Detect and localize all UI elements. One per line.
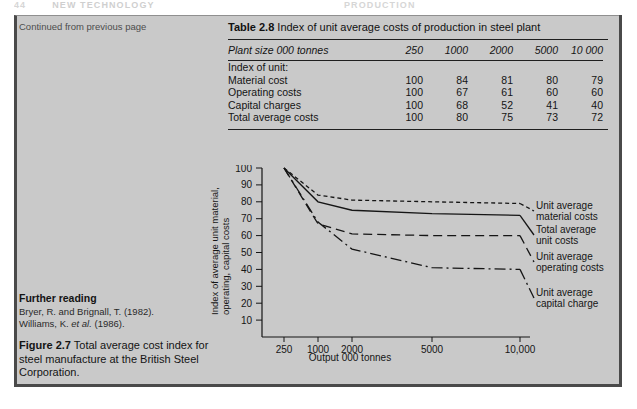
panel-bottom-rule: [14, 384, 622, 387]
table-cell-0-4: 79: [558, 74, 603, 87]
table-col-header-0: 250: [378, 40, 423, 60]
running-head-right-title: PRODUCTION: [344, 0, 416, 10]
y-tick-label: 100: [235, 165, 252, 174]
table-row: Material cost 100 84 81 80 79: [228, 74, 603, 87]
y-tick-label: 70: [241, 213, 253, 224]
legend-leader-line: [520, 236, 534, 262]
running-head: 44 NEW TECHNOLOGY PRODUCTION: [14, 0, 614, 11]
table-title: Table 2.8 Index of unit average costs of…: [228, 21, 608, 33]
legend-leader-line: [520, 269, 534, 298]
table-section-label-row: Index of unit:: [228, 61, 603, 74]
legend-leader-line: [520, 203, 534, 211]
x-tick-label: 5000: [421, 344, 444, 355]
table-cell-0-0: 100: [378, 74, 423, 87]
table-header-row: Plant size 000 tonnes 250 1000 2000 5000…: [228, 40, 603, 60]
reference-item: Williams, K. et al. (1986).: [19, 318, 199, 330]
table-col-header-2: 2000: [468, 40, 513, 60]
y-axis-label-line-1: Index of average unit material,: [209, 187, 220, 315]
table-rule-bottom: [228, 129, 608, 130]
panel-right-edge: [619, 15, 622, 387]
figure-number-label: Figure 2.7: [19, 339, 71, 351]
further-reading-heading: Further reading: [19, 292, 199, 304]
table-col-header-3: 5000: [513, 40, 558, 60]
figure-2-7-chart: 102030405060708090100 25010002000500010,…: [200, 165, 610, 365]
running-head-left-title: NEW TECHNOLOGY: [52, 0, 154, 11]
table-row: Operating costs 100 67 61 60 60: [228, 86, 603, 99]
chart-legend: Unit averagematerial costsTotal averageu…: [520, 200, 604, 309]
table-cell-1-1: 67: [423, 86, 468, 99]
legend-label-line-1: Unit average: [536, 251, 593, 262]
legend-label-line-2: material costs: [536, 211, 598, 222]
y-tick-label: 60: [241, 230, 253, 241]
table-cell-2-1: 68: [423, 99, 468, 112]
table-number-label: Table 2.8: [228, 21, 274, 33]
figure-caption: Figure 2.7 Total average cost index for …: [19, 339, 209, 380]
costs-table: Plant size 000 tonnes 250 1000 2000 5000…: [228, 40, 603, 124]
reference-1-post: (1986).: [92, 318, 125, 329]
legend-label-line-2: unit costs: [536, 235, 578, 246]
table-row-label-2: Capital charges: [228, 99, 378, 112]
series-line: [284, 168, 520, 215]
y-tick-label: 50: [241, 247, 253, 258]
y-tick-label: 20: [241, 298, 253, 309]
y-tick-label: 10: [241, 315, 253, 326]
table-cell-0-3: 80: [513, 74, 558, 87]
reference-0-pre: Bryer, R. and Brignall, T. (1982).: [19, 306, 154, 317]
table-cell-3-4: 72: [558, 111, 603, 124]
table-title-text: Index of unit average costs of productio…: [277, 21, 540, 33]
table-cell-3-2: 75: [468, 111, 513, 124]
y-tick-label: 80: [241, 196, 253, 207]
y-tick-group: 102030405060708090100: [235, 165, 262, 326]
page-folio: 44: [14, 0, 26, 11]
further-reading-block: Further reading Bryer, R. and Brignall, …: [19, 292, 199, 330]
table-col-header-1: 1000: [423, 40, 468, 60]
legend-leader-line: [520, 215, 534, 235]
table-col-header-4: 10 000: [558, 40, 603, 60]
table-cell-3-3: 73: [513, 111, 558, 124]
chart-svg: 102030405060708090100 25010002000500010,…: [200, 165, 610, 365]
legend-label-line-2: capital charge: [536, 298, 599, 309]
table-cell-1-0: 100: [378, 86, 423, 99]
legend-label-line-2: operating costs: [536, 262, 604, 273]
table-cell-1-4: 60: [558, 86, 603, 99]
table-cell-0-1: 84: [423, 74, 468, 87]
table-row-label-3: Total average costs: [228, 111, 378, 124]
table-cell-1-3: 60: [513, 86, 558, 99]
y-tick-label: 40: [241, 264, 253, 275]
reference-1-italic: et al.: [71, 318, 92, 329]
table-cell-0-2: 81: [468, 74, 513, 87]
series-line: [284, 168, 520, 203]
table-cell-2-2: 52: [468, 99, 513, 112]
table-header-stub: Plant size 000 tonnes: [228, 40, 378, 60]
legend-label-line-1: Total average: [536, 224, 596, 235]
table-row: Capital charges 100 68 52 41 40: [228, 99, 603, 112]
x-tick-label: 10,000: [505, 344, 536, 355]
x-axis-label: Output 000 tonnes: [309, 352, 391, 363]
table-cell-3-0: 100: [378, 111, 423, 124]
table-section-label: Index of unit:: [228, 61, 378, 74]
x-tick-label: 250: [276, 344, 293, 355]
table-row-label-0: Material cost: [228, 74, 378, 87]
table-cell-2-0: 100: [378, 99, 423, 112]
series-line: [284, 168, 520, 269]
series-group: [284, 168, 520, 269]
legend-label-line-1: Unit average: [536, 287, 593, 298]
table-row-label-1: Operating costs: [228, 86, 378, 99]
reference-item: Bryer, R. and Brignall, T. (1982).: [19, 306, 199, 318]
table-cell-3-1: 80: [423, 111, 468, 124]
table-row: Total average costs 100 80 75 73 72: [228, 111, 603, 124]
table-cell-2-4: 40: [558, 99, 603, 112]
continued-note: Continued from previous page: [19, 21, 146, 32]
y-axis-label-line-2: operating, capital costs: [220, 218, 231, 315]
y-tick-label: 90: [241, 179, 253, 190]
table-2-8: Table 2.8 Index of unit average costs of…: [228, 21, 608, 130]
reference-1-pre: Williams, K.: [19, 318, 71, 329]
table-cell-1-2: 61: [468, 86, 513, 99]
table-cell-2-3: 41: [513, 99, 558, 112]
legend-label-line-1: Unit average: [536, 200, 593, 211]
y-tick-label: 30: [241, 281, 253, 292]
